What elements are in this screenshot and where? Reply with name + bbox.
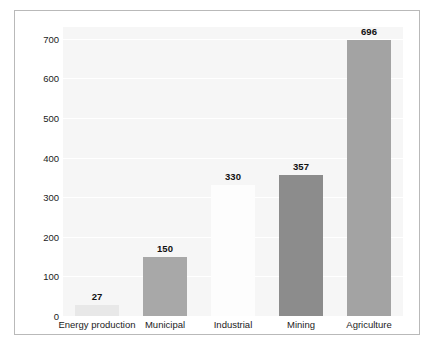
bar-value-label: 357 [293,161,309,172]
bar-value-label: 330 [225,171,241,182]
bar-energy-production[interactable] [75,305,119,316]
x-tick-label: Mining [287,319,315,330]
chart-screenshot: 0100200300400500600700 Waste (million to… [0,0,434,351]
x-axis-tick-labels: Energy productionMunicipalIndustrialMini… [63,319,403,335]
bar-agriculture[interactable] [347,40,391,316]
x-tick-label: Municipal [145,319,185,330]
chart-frame: 0100200300400500600700 Waste (million to… [14,10,420,335]
plot-area: 27150330357696 [63,27,403,316]
x-tick-label: Agriculture [346,319,391,330]
y-tick-label: 0 [19,311,59,322]
x-tick-label: Energy production [58,319,135,330]
bar-value-label: 150 [157,243,173,254]
bar-mining[interactable] [279,175,323,316]
bar-municipal[interactable] [143,257,187,316]
bar-industrial[interactable] [211,185,255,316]
y-tick-label: 100 [19,271,59,282]
x-tick-label: Industrial [214,319,253,330]
bar-value-label: 696 [361,26,377,37]
bar-value-label: 27 [92,291,103,302]
y-tick-label: 700 [19,33,59,44]
y-axis-title-container: Waste (million tonnes/year) [21,71,37,251]
